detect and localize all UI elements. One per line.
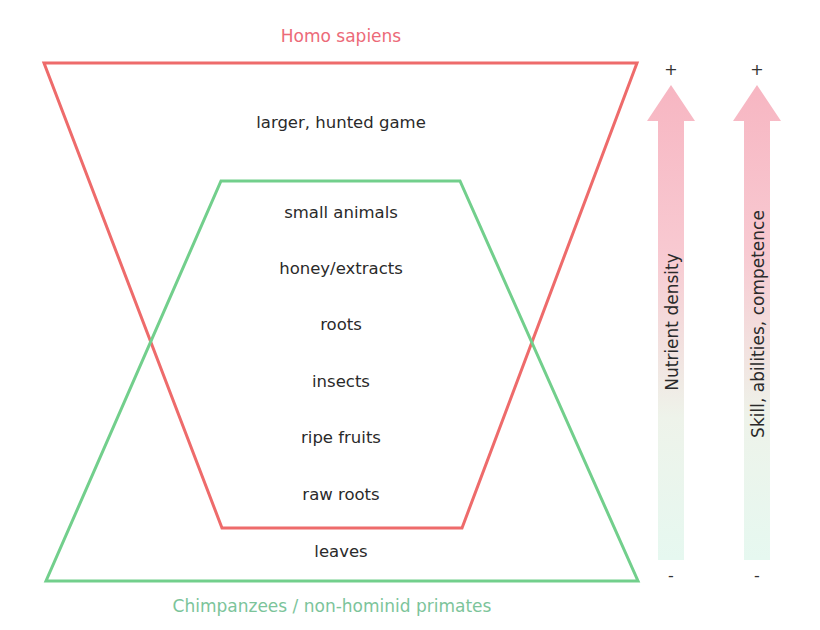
food-item-leaves: leaves: [314, 542, 367, 561]
homo-sapiens-trapezoid: [44, 63, 637, 528]
homo-sapiens-label: Homo sapiens: [281, 26, 402, 46]
diet-diagram: Homo sapiens larger, hunted game small a…: [0, 0, 820, 630]
food-item-insects: insects: [312, 372, 370, 391]
skill-axis: + Skill, abilities, competence -: [733, 60, 781, 585]
food-item-raw-roots: raw roots: [302, 485, 379, 504]
food-item-larger-hunted-game: larger, hunted game: [256, 113, 426, 132]
nutrient-density-axis: + Nutrient density -: [647, 60, 695, 585]
plus-sign: +: [664, 60, 677, 79]
nutrient-density-label: Nutrient density: [662, 253, 682, 391]
minus-sign: -: [668, 566, 674, 585]
skill-abilities-competence-label: Skill, abilities, competence: [748, 210, 768, 438]
food-item-ripe-fruits: ripe fruits: [301, 428, 381, 447]
chimpanzee-label: Chimpanzees / non-hominid primates: [173, 596, 492, 616]
minus-sign: -: [754, 566, 760, 585]
food-item-roots: roots: [320, 315, 362, 334]
food-item-honey-extracts: honey/extracts: [279, 259, 403, 278]
food-item-small-animals: small animals: [284, 203, 398, 222]
plus-sign: +: [750, 60, 763, 79]
